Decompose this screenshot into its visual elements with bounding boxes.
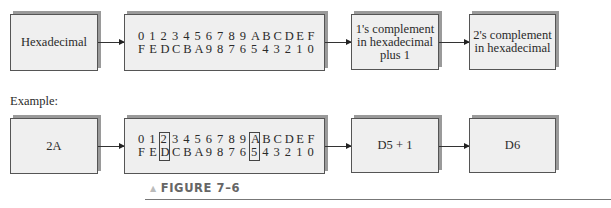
step-label-line1: 1's complement [356,23,434,36]
hex-digit: D [285,30,296,43]
highlight-column-A-5 [249,132,260,161]
hex-digit: B [183,43,194,56]
example-input-value: 2A [46,140,61,153]
hex-digit: 4 [262,43,273,56]
hex-digit: 4 [262,146,273,159]
hex-digits-row: 0123456789ABCDEF [138,30,319,43]
hex-digit: B [262,30,273,43]
example-output-value: D6 [505,139,520,152]
hex-digit: 6 [206,30,217,43]
hex-digit: 1 [296,43,307,56]
hex-digit: 0 [307,146,318,159]
hex-digit: A [251,30,262,43]
step-label-line3: plus 1 [380,49,410,62]
hex-digit: C [274,30,285,43]
arrow-right-icon [98,42,124,43]
hexadecimal-input-box: Hexadecimal [10,14,98,71]
hex-digit: 9 [240,30,251,43]
hex-digit: A [194,146,205,159]
hex-digit: 0 [138,30,149,43]
arrow-right-icon [439,42,469,43]
example-hex-table-box: 0123456789ABCDEF FEDCBA9876543210 [124,118,325,174]
arrow-right-icon [325,146,351,147]
hex-digit: 2 [161,30,172,43]
hex-digit: 1 [149,30,160,43]
hex-digit: 2 [285,146,296,159]
hex-digit: 2 [285,43,296,56]
hex-digit: F [307,30,318,43]
example-output-box: D6 [469,118,556,173]
hex-digit: 5 [194,30,205,43]
figure-caption-text: FIGURE 7–6 [161,181,240,195]
hex-digit: 7 [217,30,228,43]
hex-digit: B [183,146,194,159]
hex-digit: 8 [217,43,228,56]
example-step-box: D5 + 1 [351,118,439,173]
hex-digit: 0 [307,43,318,56]
hex-digit: 3 [172,30,183,43]
hex-digit: 4 [183,30,194,43]
hex-digit: F [138,43,149,56]
hex-digit: 9 [206,43,217,56]
hex-complement-table-box: 0123456789ABCDEF FEDCBA9876543210 [124,14,325,71]
hex-digit: 1 [296,146,307,159]
step-label-line2: in hexadecimal [357,36,433,49]
hexadecimal-label: Hexadecimal [21,36,87,49]
caption-divider [145,199,611,200]
hex-digit: F [138,146,149,159]
twos-complement-output-box: 2's complement in hexadecimal [469,14,556,70]
ones-complement-plus-one-box: 1's complement in hexadecimal plus 1 [351,14,439,70]
example-step-value: D5 + 1 [378,139,413,152]
hex-digit: C [172,43,183,56]
hex-digit: E [149,43,160,56]
hex-digit: 7 [228,43,239,56]
arrow-right-icon [325,42,351,43]
hex-digit: 8 [228,30,239,43]
example-label: Example: [10,94,58,109]
hex-digit: D [161,43,172,56]
hex-digit: 9 [206,146,217,159]
hex-complement-digits-row: FEDCBA9876543210 [138,43,319,56]
hex-digit: 6 [240,43,251,56]
output-label-line2: in hexadecimal [474,42,550,55]
highlight-column-2-D [159,132,170,161]
hex-digit: 5 [251,43,262,56]
hex-digit: A [194,43,205,56]
arrow-right-icon [98,146,124,147]
hex-digit: 7 [228,146,239,159]
hex-digit: C [172,146,183,159]
triangle-marker-icon: ▲ [150,184,157,193]
example-input-box: 2A [10,118,98,174]
hex-digit: E [296,30,307,43]
arrow-right-icon [439,146,469,147]
hex-digit: 8 [217,146,228,159]
hex-digit: 3 [274,146,285,159]
figure-caption: ▲FIGURE 7–6 [150,181,240,195]
hex-digit: 3 [274,43,285,56]
